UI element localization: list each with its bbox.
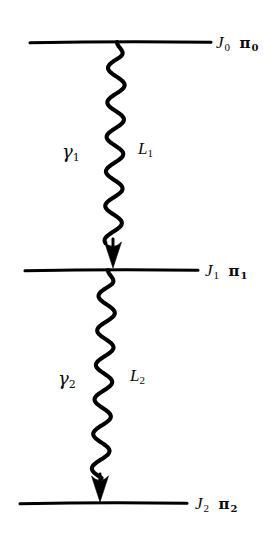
gamma-label-1: γ1 (62, 143, 80, 163)
parity-subscript-2: 2 (230, 503, 238, 514)
spin-subscript-2: 2 (203, 502, 210, 514)
gamma-wave-1 (92, 270, 115, 478)
gamma-wave-group (92, 42, 125, 482)
spin-symbol-1: J (205, 261, 213, 280)
level-scheme-diagram: J0π0 J1π1 J2π2 γ1 L1 γ2 L2 (0, 0, 279, 537)
multipolarity-label-2: L2 (130, 367, 145, 386)
spin-subscript-0: 0 (224, 41, 231, 53)
level-label-1: J1π1 (205, 262, 248, 281)
spin-subscript-1: 1 (213, 269, 220, 281)
gamma-label-2: γ2 (58, 370, 76, 390)
parity-symbol-1: π1 (220, 262, 248, 280)
level-label-2: J2π2 (195, 495, 238, 514)
level-line-0 (30, 42, 211, 43)
parity-symbol-2: π2 (210, 495, 238, 513)
multipolarity-label-1: L1 (138, 140, 153, 159)
level-line-1 (25, 270, 198, 271)
gamma-subscript-1: 1 (73, 151, 80, 164)
parity-symbol-0: π0 (231, 34, 259, 52)
multipolarity-subscript-1: 1 (147, 147, 153, 159)
level-line-2 (20, 503, 187, 504)
spin-symbol-0: J (216, 33, 224, 52)
gamma-symbol-2: γ (58, 368, 69, 389)
multipolarity-subscript-2: 2 (139, 374, 145, 386)
parity-subscript-0: 0 (251, 42, 259, 53)
spin-symbol-2: J (195, 494, 203, 513)
level-label-0: J0π0 (216, 34, 259, 53)
gamma-symbol-1: γ (62, 141, 73, 162)
parity-subscript-1: 1 (240, 270, 248, 281)
gamma-wave-0 (105, 42, 125, 243)
gamma-subscript-2: 2 (69, 378, 76, 391)
